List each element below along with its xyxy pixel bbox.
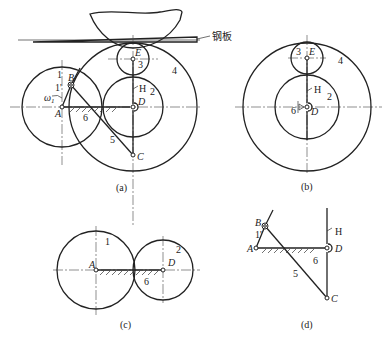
svg-text:H: H bbox=[314, 84, 321, 95]
svg-text:4: 4 bbox=[172, 65, 177, 76]
svg-text:A: A bbox=[54, 108, 62, 119]
svg-text:1: 1 bbox=[105, 236, 110, 247]
svg-text:6: 6 bbox=[83, 112, 88, 123]
svg-text:B: B bbox=[68, 72, 74, 83]
mechanism-diagram: 钢板 bbox=[0, 0, 386, 343]
svg-text:1': 1' bbox=[55, 82, 62, 93]
caption-b: (b) bbox=[301, 181, 313, 193]
svg-text:H: H bbox=[139, 83, 146, 94]
svg-text:1: 1 bbox=[57, 69, 62, 80]
svg-text:1': 1' bbox=[255, 229, 262, 240]
svg-text:D: D bbox=[167, 257, 176, 268]
svg-text:E: E bbox=[134, 47, 141, 58]
svg-text:C: C bbox=[137, 151, 144, 162]
svg-text:2: 2 bbox=[176, 244, 181, 255]
svg-text:B: B bbox=[255, 217, 261, 228]
panel-a: 钢板 bbox=[10, 10, 232, 225]
caption-d: (d) bbox=[301, 319, 313, 331]
steel-plate bbox=[33, 37, 197, 42]
caption-c: (c) bbox=[120, 319, 131, 331]
svg-text:3: 3 bbox=[138, 59, 143, 70]
panel-c: 1 2 A D 6 (c) bbox=[53, 226, 200, 331]
svg-text:D: D bbox=[137, 96, 146, 107]
svg-text:D: D bbox=[334, 243, 343, 254]
panel-b: 3 E 4 H 2 6 D (b) bbox=[235, 35, 382, 193]
svg-text:6: 6 bbox=[144, 276, 149, 287]
svg-text:6: 6 bbox=[291, 105, 296, 116]
svg-text:4: 4 bbox=[338, 55, 343, 66]
svg-text:5: 5 bbox=[110, 134, 115, 145]
steel-plate-label: 钢板 bbox=[212, 30, 232, 42]
svg-text:ω1: ω1 bbox=[44, 92, 55, 105]
caption-a: (a) bbox=[116, 182, 127, 194]
svg-text:3: 3 bbox=[296, 46, 301, 57]
svg-text:2: 2 bbox=[150, 86, 155, 97]
svg-text:6: 6 bbox=[313, 255, 318, 266]
panel-d: B 1' A D C H 5 6 (d) bbox=[246, 208, 343, 331]
svg-text:D: D bbox=[310, 106, 319, 117]
svg-text:A: A bbox=[246, 243, 254, 254]
svg-text:E: E bbox=[308, 46, 315, 57]
svg-text:H: H bbox=[335, 226, 342, 237]
svg-text:5: 5 bbox=[293, 268, 298, 279]
svg-text:A: A bbox=[88, 259, 96, 270]
svg-text:C: C bbox=[331, 293, 338, 304]
svg-text:2: 2 bbox=[327, 91, 332, 102]
